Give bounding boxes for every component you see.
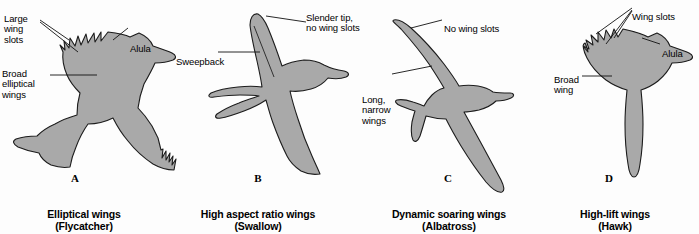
hawk-silhouette [554, 0, 699, 200]
label-broad-wing: Broad wing [554, 64, 579, 96]
panel-letter-b: B [178, 172, 338, 184]
caption-a: Elliptical wings (Flycatcher) [0, 195, 168, 233]
bird-wing-types-figure: Large wing slots Alula Broad elliptical … [0, 0, 699, 234]
panel-a-flycatcher: Large wing slots Alula Broad elliptical … [0, 0, 178, 234]
label-broad-elliptical-wings: Broad elliptical wings [2, 58, 35, 100]
label-slender-tip-no-wing-slots: Slender tip, no wing slots [306, 2, 360, 34]
leader-no-wing-slots [411, 20, 442, 28]
leader-slender-tip [266, 16, 306, 22]
panel-letter-c: C [368, 172, 528, 184]
caption-d: High-lift wings (Hawk) [550, 195, 680, 233]
caption-b: High aspect ratio wings (Swallow) [158, 195, 358, 233]
label-wing-slots: Wing slots [632, 1, 675, 22]
label-alula: Alula [662, 38, 683, 59]
caption-c: Dynamic soaring wings (Albatross) [356, 195, 542, 233]
panel-letter-a: A [0, 172, 150, 184]
leader-wing-slots-1 [40, 20, 69, 40]
panel-b-swallow: Slender tip, no wing slots Sweepback B H… [178, 0, 368, 234]
label-alula: Alula [130, 33, 151, 54]
label-no-wing-slots: No wing slots [444, 13, 499, 34]
label-large-wing-slots: Large wing slots [4, 3, 28, 45]
leader-wing-slots-2 [40, 22, 78, 52]
panel-d-hawk: Wing slots Alula Broad wing D High-lift … [554, 0, 699, 234]
leader-long-narrow-wings [392, 66, 432, 74]
label-long-narrow-wings: Long, narrow wings [362, 84, 390, 126]
panel-c-albatross: No wing slots Long, narrow wings C Dynam… [368, 0, 554, 234]
label-sweepback: Sweepback [176, 46, 224, 67]
panel-letter-d: D [554, 172, 664, 184]
